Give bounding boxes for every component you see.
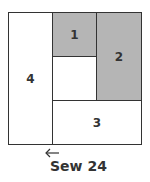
sew-instruction-caption: Sew 24 — [50, 158, 107, 174]
piece-4: 4 — [8, 12, 53, 145]
piece-1: 1 — [52, 12, 97, 57]
piece-3-label: 3 — [93, 116, 101, 130]
piece-2: 2 — [96, 12, 142, 101]
piece-2-label: 2 — [115, 50, 123, 64]
piece-1-label: 1 — [70, 28, 78, 42]
piece-center — [52, 56, 97, 101]
piece-3: 3 — [52, 100, 142, 145]
piece-4-label: 4 — [26, 72, 34, 86]
